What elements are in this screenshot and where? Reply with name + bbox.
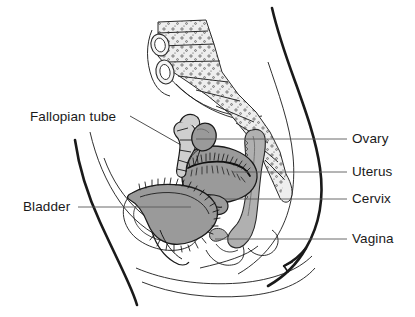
perineal-contour-2 (142, 268, 315, 297)
anatomy-diagram: Fallopian tube Bladder Ovary Uterus Cerv… (0, 0, 415, 317)
label-cervix: Cervix (352, 192, 391, 206)
bladder-body (128, 184, 218, 244)
label-ovary: Ovary (352, 132, 389, 146)
label-vagina: Vagina (352, 232, 394, 246)
anatomy-illustration (0, 0, 415, 317)
label-bladder: Bladder (23, 200, 70, 214)
label-fallopian-tube: Fallopian tube (30, 110, 116, 124)
perineal-contour-1 (136, 256, 312, 284)
label-uterus: Uterus (352, 165, 392, 179)
left-body-contour (75, 140, 137, 305)
